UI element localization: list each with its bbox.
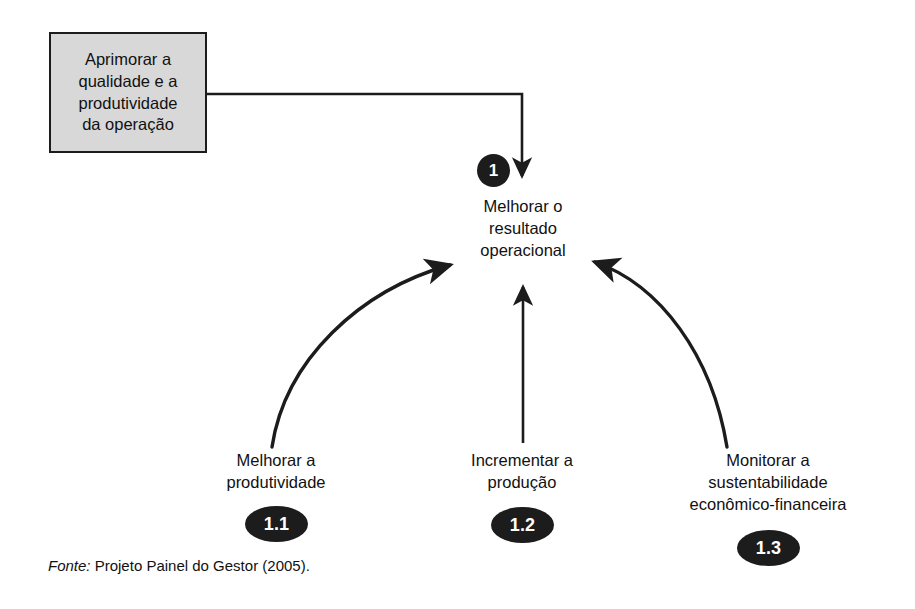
node-label-right: Monitorar a sustentabilidade econômico-f… bbox=[638, 450, 898, 515]
goal-box-label: Aprimorar a qualidade e a produtividade … bbox=[72, 49, 183, 136]
diagram-canvas: Aprimorar a qualidade e a produtividade … bbox=[0, 0, 915, 609]
source-note-lead: Fonte: bbox=[48, 557, 91, 574]
connector-goal-to-center bbox=[207, 94, 522, 176]
source-note: Fonte: Projeto Painel do Gestor (2005). bbox=[48, 557, 310, 574]
node-label-center: Melhorar o resultado operacional bbox=[430, 196, 616, 261]
badge-1-1: 1.1 bbox=[245, 506, 308, 542]
connector-right-to-center bbox=[595, 262, 727, 447]
badge-1: 1 bbox=[477, 154, 510, 187]
badge-1-2: 1.2 bbox=[491, 507, 554, 543]
connector-left-to-center bbox=[272, 265, 450, 447]
badge-1-3: 1.3 bbox=[737, 530, 800, 566]
goal-box: Aprimorar a qualidade e a produtividade … bbox=[49, 32, 207, 153]
source-note-text: Projeto Painel do Gestor (2005). bbox=[91, 557, 310, 574]
node-label-left: Melhorar a produtividade bbox=[186, 450, 366, 494]
node-label-middle: Incrementar a produção bbox=[432, 450, 612, 494]
